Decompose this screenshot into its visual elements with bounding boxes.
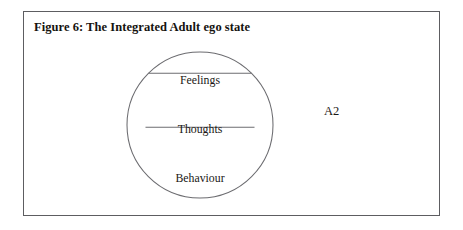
ego-state-circle-diagram: Feelings Thoughts Behaviour <box>126 51 274 199</box>
figure-frame: Figure 6: The Integrated Adult ego state… <box>23 11 440 216</box>
figure-caption: Figure 6: The Integrated Adult ego state <box>34 20 250 35</box>
segment-label-thoughts: Thoughts <box>126 122 274 136</box>
figure-page: Figure 6: The Integrated Adult ego state… <box>0 0 463 230</box>
annotation-label-a2: A2 <box>324 104 339 119</box>
segment-label-feelings: Feelings <box>126 73 274 87</box>
segment-label-behaviour: Behaviour <box>126 171 274 185</box>
